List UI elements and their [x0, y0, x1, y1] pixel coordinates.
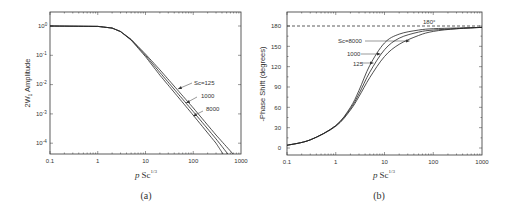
- ytick-label: 0: [278, 145, 282, 151]
- annotation-sc125: 125: [353, 61, 364, 67]
- xtick-label: 1000: [475, 159, 489, 165]
- ytick-label: 10-4: [36, 139, 47, 147]
- ticks-b: [287, 12, 482, 155]
- annotation-sc1000: 1000: [347, 51, 361, 57]
- panel-b: 0 30 60 90 120 150 180 0.1 1 10 100 1000…: [258, 12, 489, 202]
- xtick-label: 1: [334, 159, 338, 165]
- yticks-b: 0 30 60 90 120 150 180: [271, 23, 282, 151]
- x-axis-title-a: pSc1/3: [134, 169, 157, 180]
- ytick-label: 180: [271, 23, 282, 29]
- ytick-label: 10-3: [36, 110, 47, 118]
- series-line: [287, 27, 482, 145]
- series-line: [287, 27, 482, 145]
- annotation-sc125: Sc=125: [194, 80, 215, 86]
- xtick-label: 100: [428, 159, 439, 165]
- annotation-180: 180°: [423, 19, 436, 25]
- ytick-label: 150: [271, 44, 282, 50]
- x-axis-title-b: pSc1/3: [372, 169, 395, 180]
- y-axis-title-b: -Phase Shift (degrees): [258, 46, 267, 122]
- xtick-label: 10: [142, 158, 149, 164]
- xtick-label: 1000: [234, 158, 248, 164]
- curves-b: [287, 27, 482, 145]
- yticks-a: 100 10-1 10-2 10-3 10-4: [36, 22, 48, 147]
- ytick-label: 30: [274, 125, 281, 131]
- figure: 100 10-1 10-2 10-3 10-4 0.1 1 10 100 100…: [0, 0, 507, 211]
- annotation-sc1000: 1000: [201, 93, 215, 99]
- xtick-label: 0.1: [46, 158, 55, 164]
- series-line: [50, 26, 233, 154]
- series-line: [287, 27, 482, 145]
- panel-a: 100 10-1 10-2 10-3 10-4 0.1 1 10 100 100…: [23, 12, 248, 202]
- caption-b: (b): [373, 190, 385, 202]
- ytick-label: 60: [274, 105, 281, 111]
- xtick-label: 1: [96, 158, 100, 164]
- ytick-label: 120: [271, 64, 282, 70]
- xticks-b: 0.1 1 10 100 1000: [283, 159, 490, 165]
- series-line: [50, 26, 228, 154]
- xtick-label: 0.1: [283, 159, 292, 165]
- xtick-label: 100: [188, 158, 199, 164]
- ytick-label: 10-1: [36, 51, 47, 59]
- xticks-a: 0.1 1 10 100 1000: [46, 158, 249, 164]
- curves-a: [50, 26, 233, 154]
- plot-frame-b: [287, 12, 482, 155]
- xtick-label: 10: [381, 159, 388, 165]
- y-axis-title-a: 2W1 Amplitude: [23, 59, 33, 108]
- annotation-sc8000: 8000: [206, 106, 220, 112]
- ytick-label: 100: [38, 22, 48, 30]
- ytick-label: 10-2: [36, 80, 47, 88]
- annotation-sc8000: Sc=8000: [338, 38, 363, 44]
- ytick-label: 90: [274, 84, 281, 90]
- caption-a: (a): [140, 190, 151, 202]
